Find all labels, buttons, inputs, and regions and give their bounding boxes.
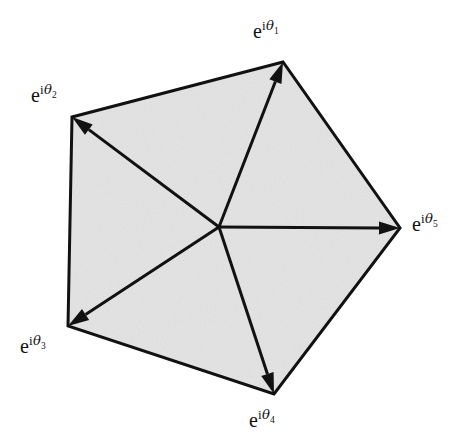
label-theta-3: θ [33, 333, 41, 348]
label-base-3: e [20, 335, 29, 357]
label-index-4: 4 [270, 415, 275, 425]
label-index-5: 5 [433, 219, 438, 229]
label-index-1: 1 [274, 26, 279, 36]
label-base-2: e [31, 84, 40, 106]
label-base-1: e [253, 20, 262, 42]
label-base-4: e [249, 409, 258, 431]
pentagon-diagram [0, 0, 465, 448]
vertex-label-4: eiθ4 [249, 410, 275, 430]
label-theta-1: θ [266, 18, 274, 33]
vertex-label-1: eiθ1 [253, 21, 279, 41]
label-index-2: 2 [52, 90, 57, 100]
label-theta-4: θ [262, 407, 270, 422]
vertex-label-3: eiθ3 [20, 336, 46, 356]
label-base-5: e [412, 213, 421, 235]
center-point [219, 227, 220, 228]
vertex-label-2: eiθ2 [31, 85, 57, 105]
label-theta-5: θ [425, 211, 433, 226]
arrow-shaft-5 [219, 227, 379, 228]
vertex-label-5: eiθ5 [412, 214, 438, 234]
label-index-3: 3 [41, 341, 46, 351]
figure-canvas: eiθ1 eiθ2 eiθ3 eiθ4 eiθ5 [0, 0, 465, 448]
label-theta-2: θ [44, 82, 52, 97]
